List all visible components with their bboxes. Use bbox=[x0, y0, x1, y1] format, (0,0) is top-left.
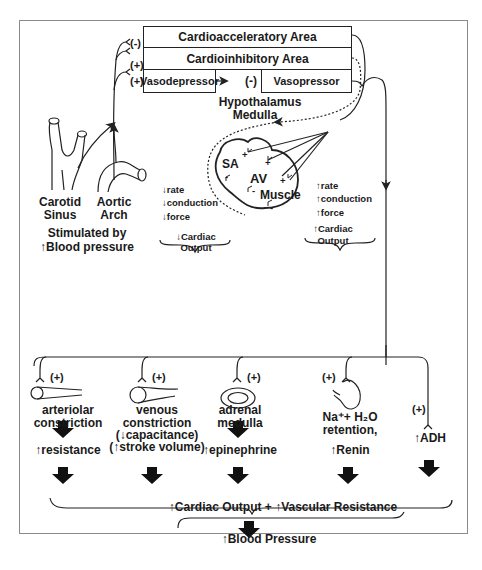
down-arrow-icons bbox=[52, 421, 440, 538]
heart-minus-av: - bbox=[252, 186, 255, 196]
hypothalamus-label: Hypothalamus bbox=[219, 96, 302, 108]
vasodepressor-box: Vasodepressor bbox=[143, 69, 216, 93]
cardioacceleratory-label: Cardioacceleratory Area bbox=[178, 30, 316, 44]
combined-effect-label: ↑Cardiac Output + ↑Vascular Resistance bbox=[169, 501, 397, 513]
medulla-label: Medulla bbox=[233, 109, 278, 121]
decrease-cardiac-output-2: Output bbox=[180, 243, 211, 253]
sign-cardioacceleratory: (-) bbox=[130, 37, 141, 49]
heart-plus-muscle: + bbox=[280, 176, 286, 186]
sign-adh: (+) bbox=[412, 403, 426, 415]
decrease-cardiac-output-1: ↓Cardiac bbox=[176, 232, 216, 242]
adrenal-label-2: medulla bbox=[217, 417, 262, 429]
increase-cardiac-output-1: ↑Cardiac bbox=[313, 224, 353, 234]
heart-av-label: AV bbox=[250, 172, 267, 185]
heart-minus-sa: - bbox=[225, 172, 228, 182]
vasopressor-label: Vasopressor bbox=[273, 75, 339, 87]
cardioinhibitory-area-box: Cardioinhibitory Area bbox=[143, 47, 352, 70]
connection-lines bbox=[0, 0, 482, 570]
decrease-force: ↓force bbox=[162, 212, 190, 222]
arteriolar-label-1: arteriolar bbox=[42, 404, 94, 416]
heart-muscle-label: Muscle bbox=[260, 189, 301, 201]
sign-kidney: (+) bbox=[322, 371, 336, 383]
vasopressor-box: Vasopressor bbox=[261, 69, 352, 93]
adrenal-label-1: adrenal bbox=[219, 404, 262, 416]
cardioacceleratory-area-box: Cardioacceleratory Area bbox=[143, 26, 352, 48]
blood-pressure-label: ↑Blood Pressure bbox=[222, 533, 317, 545]
venous-label-1: venous bbox=[136, 404, 178, 416]
carotid-label-2: Sinus bbox=[44, 209, 77, 221]
venous-label-4: (↑stroke volume) bbox=[109, 441, 204, 453]
sign-vasopressor: (-) bbox=[245, 74, 257, 88]
renin-label: ↑Renin bbox=[330, 444, 369, 456]
retention-label-2: retention, bbox=[323, 424, 378, 436]
aortic-label-2: Arch bbox=[100, 209, 127, 221]
heart-sa-label: SA bbox=[222, 158, 239, 170]
adh-label: ↑ADH bbox=[414, 432, 446, 444]
decrease-rate: ↓rate bbox=[162, 185, 184, 195]
increase-rate: ↑rate bbox=[316, 181, 338, 191]
heart-plus-sa: + bbox=[242, 150, 248, 160]
increase-cardiac-output-2: Output bbox=[317, 236, 348, 246]
increase-force: ↑force bbox=[316, 208, 344, 218]
stimulated-label-2: ↑Blood pressure bbox=[40, 241, 134, 253]
stimulated-label-1: Stimulated by bbox=[48, 227, 127, 239]
sign-vasodepressor: (+) bbox=[130, 75, 144, 87]
epinephrine-label: ↑epinephrine bbox=[203, 444, 277, 456]
heart-plus-av: + bbox=[265, 158, 271, 168]
sign-arteriolar: (+) bbox=[50, 371, 64, 383]
arteriolar-label-2: constriction bbox=[34, 417, 103, 429]
heart-minus-muscle: - bbox=[270, 203, 273, 213]
cardioinhibitory-label: Cardioinhibitory Area bbox=[186, 52, 308, 66]
carotid-label-1: Carotid bbox=[39, 196, 81, 208]
aortic-label-1: Aortic bbox=[97, 196, 132, 208]
vasodepressor-label: Vasodepressor bbox=[140, 75, 219, 87]
sign-adrenal: (+) bbox=[247, 371, 261, 383]
increase-conduction: ↑conduction bbox=[316, 194, 372, 204]
decrease-conduction: ↓conduction bbox=[162, 198, 218, 208]
sign-venous: (+) bbox=[152, 371, 166, 383]
resistance-label: ↑resistance bbox=[35, 444, 100, 456]
sign-cardioinhibitory: (+) bbox=[130, 59, 144, 71]
retention-label-1: Na⁺+ H₂O bbox=[322, 411, 377, 423]
